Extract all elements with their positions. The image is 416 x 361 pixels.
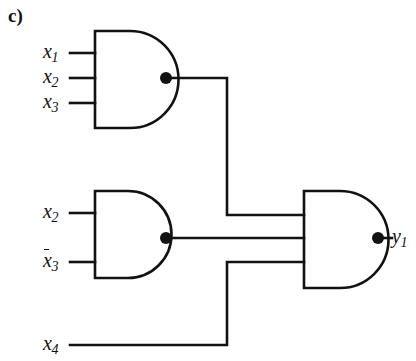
circuit-schematic bbox=[0, 0, 416, 361]
label-not-x3-base: x bbox=[43, 249, 52, 271]
label-not-x3: x3 bbox=[43, 250, 58, 274]
label-y1-output: y1 bbox=[392, 226, 407, 250]
label-x2-middle: x2 bbox=[43, 201, 58, 225]
label-x1-subscript: 1 bbox=[51, 50, 58, 65]
label-x2-top: x2 bbox=[43, 66, 58, 90]
label-x3-top-subscript: 3 bbox=[51, 100, 58, 115]
label-x2-middle-subscript: 2 bbox=[51, 210, 58, 225]
circuit-diagram-canvas: c) bbox=[0, 0, 416, 361]
and-gate-middle-body bbox=[95, 191, 172, 278]
label-not-x3-subscript: 3 bbox=[51, 259, 58, 274]
label-x4: x4 bbox=[43, 333, 58, 357]
label-x2-top-subscript: 2 bbox=[51, 75, 58, 90]
wire-gate1-to-gate3 bbox=[166, 78, 304, 215]
junction-dot-gate2-output bbox=[160, 232, 172, 244]
label-x4-subscript: 4 bbox=[51, 342, 58, 357]
wire-x4-to-gate3 bbox=[70, 262, 304, 345]
junction-dot-gate1-output bbox=[160, 72, 172, 84]
overbar-group: x bbox=[43, 250, 52, 270]
label-x3-top: x3 bbox=[43, 91, 58, 115]
overbar-line bbox=[44, 249, 50, 251]
label-y1-subscript: 1 bbox=[400, 235, 407, 250]
label-x1: x1 bbox=[43, 41, 58, 65]
junction-dot-gate3-output bbox=[372, 232, 384, 244]
